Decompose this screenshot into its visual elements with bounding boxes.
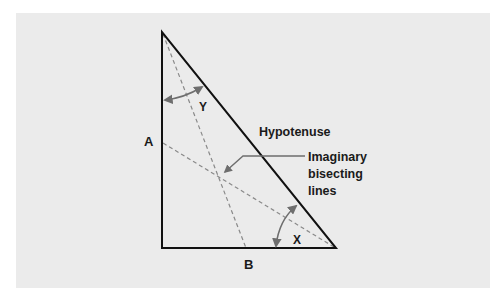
bisector-note-line-2: bisecting [308,167,363,181]
angle-x-label: X [293,233,301,247]
triangle-outline [162,32,336,248]
side-b-label: B [244,257,253,272]
right-triangle-diagram: A B Y X Hypotenuse Imaginary bisecting l… [0,0,494,294]
side-a-label: A [144,134,154,149]
hypotenuse-label: Hypotenuse [259,125,331,139]
angle-y-arc-icon [165,87,202,100]
bisector-note-line-1: Imaginary [308,150,367,164]
bisector-line-from-top [163,34,246,248]
bisector-note-line-3: lines [308,184,337,198]
angle-y-label: Y [199,100,207,114]
